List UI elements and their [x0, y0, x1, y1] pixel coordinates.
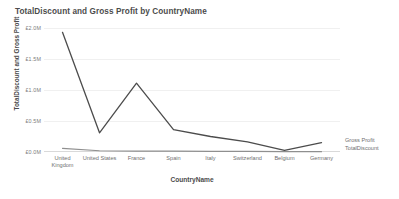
- x-tick-label: France: [118, 155, 155, 177]
- x-tick-label: Italy: [192, 155, 229, 177]
- x-tick-label: United Kingdom: [44, 155, 81, 177]
- x-tick-label: Belgium: [266, 155, 303, 177]
- y-axis-tick-labels: £2.0M £1.5M £1.0M £0.5M £0.0M: [0, 28, 41, 152]
- x-tick-label: Switzerland: [229, 155, 266, 177]
- legend-entry-gross-profit[interactable]: Gross Profit: [345, 136, 399, 144]
- chart-container: TotalDiscount and Gross Profit by Countr…: [0, 0, 399, 199]
- chart-legend: Gross Profit TotalDiscount: [345, 136, 399, 153]
- x-tick-label: Spain: [155, 155, 192, 177]
- x-tick-label: United States: [81, 155, 118, 177]
- x-axis-title: CountryName: [44, 176, 340, 183]
- legend-entry-total-discount[interactable]: TotalDiscount: [345, 144, 399, 152]
- x-tick-label: Germany: [303, 155, 340, 177]
- y-tick-label: £1.0M: [3, 87, 41, 93]
- series-lines: [44, 28, 340, 152]
- x-axis-tick-labels: United Kingdom United States France Spai…: [44, 155, 340, 177]
- y-tick-label: £1.5M: [3, 56, 41, 62]
- y-tick-label: £0.5M: [3, 118, 41, 124]
- plot-area: [44, 28, 340, 152]
- line-gross-profit: [63, 32, 322, 150]
- chart-title: TotalDiscount and Gross Profit by Countr…: [15, 7, 207, 16]
- y-tick-label: £0.0M: [3, 149, 41, 155]
- y-tick-label: £2.0M: [3, 25, 41, 31]
